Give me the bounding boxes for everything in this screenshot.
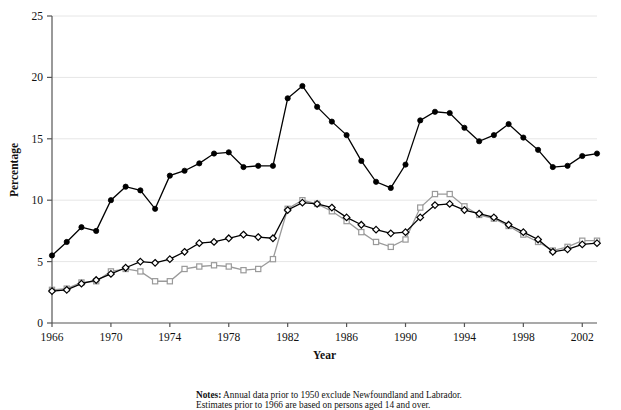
data-point-marker — [153, 279, 158, 284]
data-point-marker — [300, 83, 305, 88]
data-point-marker — [403, 237, 408, 242]
data-point-marker — [565, 163, 570, 168]
data-point-marker — [462, 125, 467, 130]
data-point-marker — [241, 164, 246, 169]
data-point-marker — [506, 121, 511, 126]
notes-heading: Notes: — [196, 390, 221, 400]
data-point-marker — [197, 161, 202, 166]
y-tick-label: 5 — [37, 256, 43, 268]
data-point-marker — [359, 230, 364, 235]
data-point-marker — [255, 234, 262, 241]
data-point-marker — [373, 179, 378, 184]
data-point-marker — [535, 147, 540, 152]
data-point-marker — [240, 231, 247, 238]
series-men-25 — [49, 191, 599, 292]
data-point-marker — [256, 266, 261, 271]
data-point-marker — [580, 153, 585, 158]
data-point-marker — [196, 240, 203, 247]
data-point-marker — [138, 188, 143, 193]
x-tick-label: 2002 — [571, 331, 594, 343]
data-point-marker — [432, 191, 437, 196]
y-tick-label: 25 — [32, 10, 44, 22]
y-tick-label: 15 — [32, 133, 44, 145]
data-point-marker — [79, 225, 84, 230]
data-point-marker — [359, 158, 364, 163]
x-tick-label: 1966 — [41, 331, 64, 343]
series-women-25 — [49, 199, 601, 294]
gridlines — [52, 16, 597, 262]
data-point-marker — [94, 228, 99, 233]
x-tick-label: 1998 — [512, 331, 535, 343]
data-point-marker — [211, 263, 216, 268]
data-point-marker — [226, 150, 231, 155]
data-point-marker — [64, 239, 69, 244]
data-point-marker — [285, 96, 290, 101]
y-tick-label: 20 — [32, 71, 44, 83]
notes-line-1: Notes: Annual data prior to 1950 exclude… — [196, 390, 616, 400]
data-point-marker — [225, 235, 232, 242]
data-point-marker — [181, 248, 188, 255]
data-point-marker — [329, 119, 334, 124]
unemployment-rate-line-chart: 0510152025 19661970197419781982198619901… — [0, 0, 621, 365]
data-point-marker — [226, 264, 231, 269]
data-point-marker — [388, 185, 393, 190]
data-point-marker — [315, 104, 320, 109]
data-point-marker — [358, 221, 365, 228]
x-tick-labels: 1966197019741978198219861990199419982002 — [41, 331, 595, 343]
x-tick-label: 1970 — [99, 331, 122, 343]
data-point-marker — [211, 239, 218, 246]
data-point-marker — [137, 258, 144, 265]
x-tick-label: 1974 — [158, 331, 181, 343]
data-point-marker — [182, 266, 187, 271]
data-point-marker — [447, 191, 452, 196]
data-point-marker — [403, 162, 408, 167]
series-youth-15-24 — [49, 83, 599, 258]
data-point-marker — [491, 133, 496, 138]
series-line — [52, 194, 597, 290]
data-point-marker — [594, 151, 599, 156]
data-point-marker — [241, 268, 246, 273]
chart-figure: 0510152025 19661970197419781982198619901… — [0, 0, 621, 410]
chart-notes: Notes: Annual data prior to 1950 exclude… — [196, 390, 616, 410]
data-point-marker — [167, 173, 172, 178]
data-point-marker — [388, 244, 393, 249]
data-series-layer — [49, 83, 601, 294]
data-point-marker — [447, 110, 452, 115]
data-point-marker — [432, 109, 437, 114]
x-axis-title: Year — [313, 349, 336, 361]
data-point-marker — [344, 133, 349, 138]
data-point-marker — [373, 226, 380, 233]
x-tick-label: 1986 — [335, 331, 358, 343]
data-point-marker — [418, 118, 423, 123]
data-point-marker — [211, 151, 216, 156]
x-tick-label: 1982 — [276, 331, 299, 343]
data-point-marker — [270, 163, 275, 168]
notes-line-1-text: Annual data prior to 1950 exclude Newfou… — [221, 390, 462, 400]
data-point-marker — [550, 164, 555, 169]
data-point-marker — [49, 253, 54, 258]
y-tick-label: 0 — [37, 317, 43, 329]
y-tick-labels: 0510152025 — [32, 10, 44, 329]
data-point-marker — [256, 163, 261, 168]
data-point-marker — [418, 205, 423, 210]
data-point-marker — [477, 139, 482, 144]
axes — [47, 16, 597, 327]
data-point-marker — [446, 201, 453, 208]
data-point-marker — [108, 198, 113, 203]
y-tick-label: 10 — [32, 194, 44, 206]
data-point-marker — [138, 269, 143, 274]
data-point-marker — [123, 184, 128, 189]
x-tick-label: 1978 — [217, 331, 240, 343]
data-point-marker — [152, 260, 159, 267]
data-point-marker — [270, 257, 275, 262]
data-point-marker — [167, 279, 172, 284]
data-point-marker — [387, 230, 394, 237]
data-point-marker — [521, 135, 526, 140]
data-point-marker — [182, 168, 187, 173]
y-axis-title: Percentage — [8, 143, 21, 197]
series-line — [52, 203, 597, 291]
data-point-marker — [270, 235, 277, 242]
data-point-marker — [153, 206, 158, 211]
data-point-marker — [197, 264, 202, 269]
x-tick-label: 1990 — [394, 331, 417, 343]
